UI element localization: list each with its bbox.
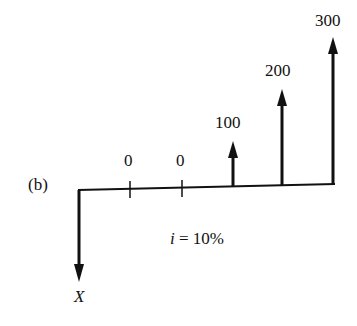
outflow-arrow-head-icon: [74, 264, 84, 282]
timeline-axis: [78, 184, 335, 190]
interest-rate-label: i = 10%: [170, 230, 224, 247]
period-value-5: 300: [315, 12, 341, 29]
period-value-4: 200: [265, 62, 291, 79]
inflow-arrow-300-head-icon: [328, 37, 338, 54]
part-label: (b): [28, 176, 48, 193]
period-value-3: 100: [215, 114, 241, 131]
interest-value: = 10%: [175, 229, 224, 248]
inflow-arrow-100-head-icon: [228, 141, 238, 158]
outflow-label: X: [74, 288, 84, 305]
period-value-2: 0: [176, 152, 185, 169]
inflow-arrow-200-head-icon: [277, 89, 287, 106]
period-value-1: 0: [124, 152, 133, 169]
